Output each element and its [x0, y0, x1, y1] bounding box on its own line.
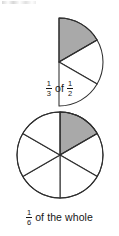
whole-circle-sixths-group — [17, 112, 103, 198]
fraction-one-third-denominator: 3 — [46, 89, 52, 97]
caption-bottom-connector: of the whole — [35, 212, 93, 223]
fraction-one-sixth-numerator: 1 — [26, 209, 32, 218]
caption-bottom-row: 1 6 of the whole — [26, 209, 93, 226]
fraction-one-sixth: 1 6 — [26, 209, 32, 226]
fraction-one-half-numerator: 1 — [67, 80, 73, 89]
fraction-one-third: 1 3 — [46, 80, 52, 97]
fraction-one-half: 1 2 — [67, 80, 73, 97]
fraction-one-sixth-denominator: 6 — [26, 218, 32, 226]
caption-top-row: 1 3 of 1 2 — [46, 80, 73, 97]
caption-bottom: 1 6 of the whole — [0, 206, 119, 226]
fraction-one-third-numerator: 1 — [46, 80, 52, 89]
fraction-diagram-figure: 1 3 of 1 2 1 6 of the whole — [0, 0, 119, 236]
caption-top-connector: of — [55, 83, 64, 94]
caption-top: 1 3 of 1 2 — [0, 77, 119, 97]
fraction-diagram-svg — [0, 0, 119, 236]
fraction-one-half-denominator: 2 — [67, 89, 73, 97]
scan-noise-artifact — [2, 1, 36, 4]
